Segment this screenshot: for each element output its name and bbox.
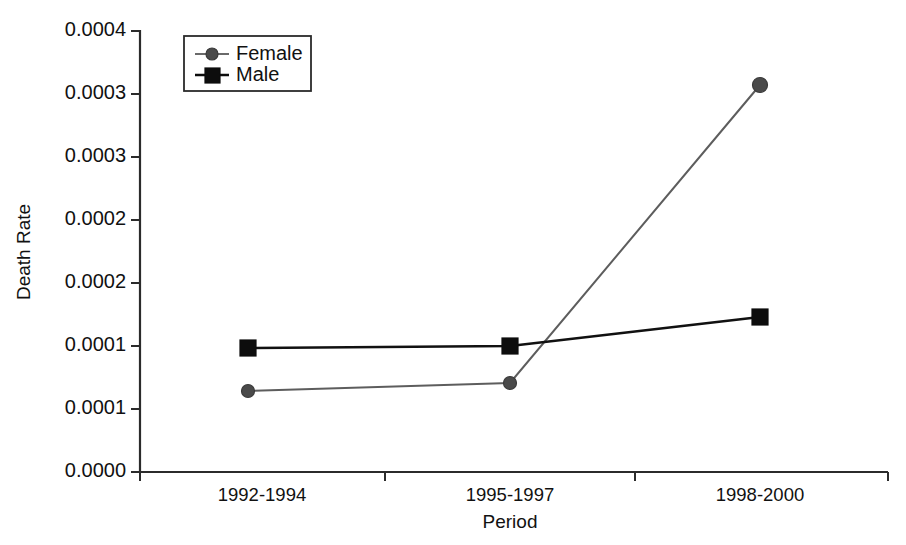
y-axis-ticks: [131, 31, 140, 472]
y-tick-label: 0.0003: [65, 144, 126, 166]
male-data-point: [502, 338, 518, 354]
chart-legend: Female Male: [184, 36, 311, 91]
x-tick-label: 1998-2000: [716, 484, 804, 505]
legend-label-male: Male: [236, 63, 279, 85]
x-axis-tick-labels: 1992-1994 1995-1997 1998-2000: [218, 484, 804, 505]
y-tick-label: 0.0001: [65, 396, 126, 418]
male-data-point: [752, 309, 768, 325]
y-tick-label: 0.0004: [65, 18, 126, 40]
y-tick-label: 0.0001: [65, 333, 126, 355]
female-data-point: [753, 78, 768, 93]
x-tick-label: 1992-1994: [218, 484, 306, 505]
y-tick-label: 0.0003: [65, 81, 126, 103]
circle-marker-icon: [206, 48, 218, 60]
female-data-point: [504, 377, 517, 390]
y-tick-label: 0.0000: [65, 459, 126, 481]
y-axis-tick-labels: 0.0004 0.0003 0.0003 0.0002 0.0002 0.000…: [65, 18, 126, 481]
female-data-point: [242, 385, 255, 398]
y-axis-title: Death Rate: [13, 204, 34, 300]
y-tick-label: 0.0002: [65, 270, 126, 292]
male-data-point: [240, 340, 256, 356]
chart-canvas: 0.0004 0.0003 0.0003 0.0002 0.0002 0.000…: [0, 0, 906, 545]
x-axis: 1992-1994 1995-1997 1998-2000 Period: [139, 472, 888, 532]
series-male: [240, 309, 768, 356]
y-axis: 0.0004 0.0003 0.0003 0.0002 0.0002 0.000…: [13, 18, 140, 481]
x-axis-ticks: [140, 472, 888, 481]
line-chart: 0.0004 0.0003 0.0003 0.0002 0.0002 0.000…: [0, 0, 906, 545]
y-tick-label: 0.0002: [65, 207, 126, 229]
legend-label-female: Female: [236, 42, 303, 64]
square-marker-icon: [205, 68, 220, 83]
x-tick-label: 1995-1997: [466, 484, 554, 505]
x-axis-title: Period: [483, 511, 538, 532]
